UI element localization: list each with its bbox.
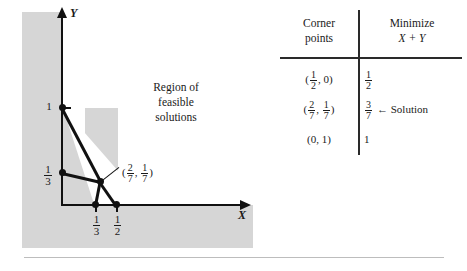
fraction-numerator: 1: [114, 214, 122, 225]
fraction-one-seventh: 1 7: [141, 163, 148, 184]
table-row: ( 1 2 , 0): [282, 70, 356, 91]
fraction-denominator: 7: [365, 110, 372, 121]
figure-root: Y X 1 1 3: [0, 0, 467, 271]
solution-annotation: ← Solution: [377, 103, 428, 115]
fraction-denominator: 3: [44, 175, 52, 187]
y-tick-label-one-third: 1 3: [40, 164, 56, 187]
paren-close: ): [331, 103, 335, 115]
table-header-corner-line2: points: [282, 31, 356, 46]
comma: ,: [316, 103, 319, 115]
table-cell-objective-value: 1: [364, 133, 464, 145]
x-axis: [62, 204, 247, 206]
fraction-numerator: 1: [323, 100, 330, 110]
table-cell-objective-value: 3 7 ← Solution: [364, 100, 464, 121]
fraction-numerator: 3: [365, 100, 372, 110]
table-header-corner-line1: Corner: [282, 16, 356, 31]
fraction-numerator: 1: [365, 70, 372, 80]
table-header-rule: [280, 57, 462, 59]
intersection-point-label: ( 2 7 , 1 7 ): [122, 163, 153, 184]
fraction-numerator: 2: [308, 100, 315, 110]
fraction-denominator: 3: [93, 225, 101, 237]
comma: ,: [135, 166, 138, 178]
region-annotation-line2: feasible: [120, 95, 232, 110]
fraction-denominator: 7: [141, 173, 148, 184]
y-axis-arrow-icon: [57, 7, 67, 18]
feasible-region-graph: Y X 1 1 3: [0, 0, 280, 271]
table-row: ( 2 7 , 1 7 ): [282, 100, 356, 121]
fraction-numerator: 2: [127, 163, 134, 173]
table-header-minimize-line2: X + Y: [362, 31, 462, 46]
corner-points-table: Corner points Minimize X + Y ( 1 2 , 0) …: [282, 0, 467, 271]
fraction-denominator: 7: [127, 173, 134, 184]
fraction-numerator: 1: [93, 214, 101, 225]
fraction-numerator: 1: [141, 163, 148, 173]
x-axis-label: X: [238, 208, 246, 223]
comma: ,: [318, 73, 321, 85]
region-annotation-line1: Region of: [120, 80, 232, 95]
table-vertical-divider: [358, 10, 360, 155]
table-header-minimize: Minimize X + Y: [362, 16, 462, 46]
fraction-one-half: 1 2: [310, 70, 317, 91]
paren-close: ): [149, 166, 153, 178]
point-text: (0, 1): [307, 133, 331, 145]
fraction-denominator: 2: [365, 80, 372, 91]
vertex-zero-one: [59, 104, 66, 111]
fraction-one-half: 1 2: [365, 70, 372, 91]
paren-close: ): [329, 73, 333, 85]
fraction-denominator: 2: [310, 80, 317, 91]
table-header-corner-points: Corner points: [282, 16, 356, 46]
vertex-zero-one-third: [59, 169, 66, 176]
paren-open: (: [122, 166, 126, 178]
table-cell-objective-value: 1 2: [364, 70, 464, 91]
fraction-three-sevenths: 3 7: [365, 100, 372, 121]
page-bottom-rule: [24, 257, 444, 258]
vertex-one-third-zero: [92, 201, 99, 208]
fraction-two-sevenths: 2 7: [308, 100, 315, 121]
table-header-minimize-line1: Minimize: [362, 16, 462, 31]
fraction-one-half: 1 2: [114, 214, 122, 237]
paren-open: (: [304, 103, 308, 115]
fraction-one-third: 1 3: [44, 164, 52, 187]
region-annotation: Region of feasible solutions: [120, 80, 232, 126]
y-tick-label-one-text: 1: [46, 100, 52, 112]
fraction-denominator: 7: [308, 110, 315, 121]
fraction-one-third: 1 3: [93, 214, 101, 237]
y-axis-label: Y: [70, 6, 77, 21]
table-row: (0, 1): [282, 133, 356, 145]
fraction-one-seventh: 1 7: [323, 100, 330, 121]
objective-value-whole: 1: [364, 133, 370, 145]
y-tick-label-one: 1: [42, 101, 56, 112]
fraction-denominator: 2: [114, 225, 122, 237]
x-tick-label-one-third: 1 3: [88, 214, 105, 237]
region-annotation-line3: solutions: [120, 110, 232, 125]
fraction-numerator: 1: [310, 70, 317, 80]
fraction-two-sevenths: 2 7: [127, 163, 134, 184]
paren-open: (: [305, 73, 309, 85]
vertex-one-half-zero: [113, 201, 120, 208]
fraction-denominator: 7: [323, 110, 330, 121]
fraction-numerator: 1: [44, 164, 52, 175]
x-tick-label-one-half: 1 2: [109, 214, 126, 237]
